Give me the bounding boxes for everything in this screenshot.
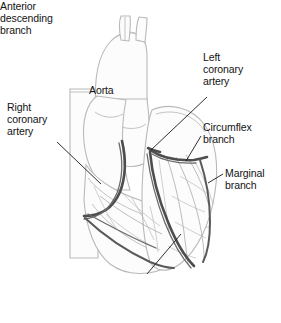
label-circumflex-branch: Circumflex branch	[203, 121, 252, 145]
label-marginal-branch: Marginal branch	[225, 167, 264, 191]
label-anterior-descending-branch: Anterior descending branch	[0, 0, 53, 37]
label-right-coronary-artery: Right coronary artery	[7, 101, 47, 138]
label-aorta: Aorta	[89, 84, 114, 96]
coronary-artery-diagram: .vsl { fill:#fcfcfc; stroke:#b9b9b9; str…	[0, 0, 281, 323]
label-left-coronary-artery: Left coronary artery	[203, 51, 243, 88]
